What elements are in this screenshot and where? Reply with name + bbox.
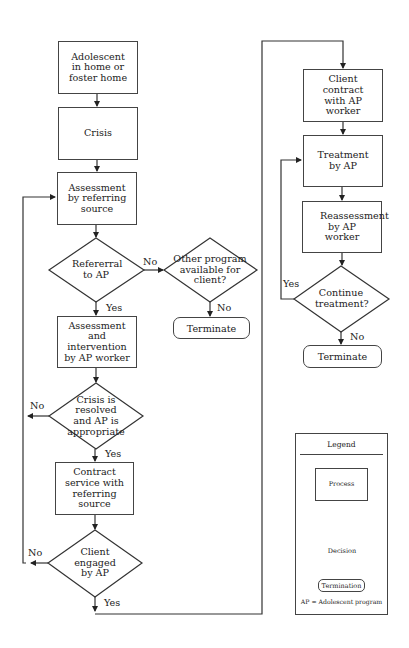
other-program-decision-label: Other program available for client? xyxy=(168,254,252,286)
continue-no-label: No xyxy=(350,331,364,342)
legend-title: Legend xyxy=(296,440,387,449)
client-engaged-decision-text: Client engaged by AP xyxy=(64,545,126,581)
legend-decision-label: Decision xyxy=(328,546,356,557)
legend-panel: Legend Process Decision Termination AP =… xyxy=(295,433,388,615)
treatment-process-box: Treatment by AP xyxy=(303,135,383,187)
legend-divider xyxy=(300,454,383,455)
client-contract-process-box: Client contract with AP worker xyxy=(303,69,383,122)
engaged-no-label: No xyxy=(28,547,42,558)
contract-service-process-label: Contract service with referring source xyxy=(62,467,128,509)
legend-decision-text: Decision xyxy=(316,544,368,558)
other-program-no-label: No xyxy=(217,302,231,313)
referral-decision-label: Refererral to AP xyxy=(72,259,120,280)
referral-no-label: No xyxy=(143,256,157,267)
intervention-process-label: Assessment and intervention by AP worker xyxy=(61,321,133,363)
assessment-process-label: Assessment by referring source xyxy=(66,183,128,215)
crisis-no-label: No xyxy=(30,400,44,411)
treatment-process-label: Treatment by AP xyxy=(315,150,371,171)
other-program-decision-text: Other program available for client? xyxy=(168,253,252,287)
reassessment-process-label: Reassessment by AP worker xyxy=(320,211,364,243)
start-process-label: Adolescent in home or foster home xyxy=(68,52,128,84)
crisis-resolved-decision-label: Crisis is resolved and AP is appropriate xyxy=(67,395,125,437)
terminate-1-label: Terminate xyxy=(187,323,237,334)
legend-termination-label: Termination xyxy=(322,582,362,590)
legend-process-box: Process xyxy=(315,468,368,501)
start-process-box: Adolescent in home or foster home xyxy=(58,41,138,94)
reassessment-process-box: Reassessment by AP worker xyxy=(302,201,382,253)
crisis-process-label: Crisis xyxy=(84,128,112,139)
legend-process-label: Process xyxy=(329,479,355,490)
crisis-process-box: Crisis xyxy=(58,107,138,160)
continue-treatment-decision-text: Continue treatment? xyxy=(311,285,371,313)
crisis-yes-label: Yes xyxy=(105,448,121,459)
contract-service-process-box: Contract service with referring source xyxy=(55,462,134,515)
referral-yes-label: Yes xyxy=(106,302,122,313)
engaged-yes-label: Yes xyxy=(104,597,120,608)
crisis-resolved-decision-text: Crisis is resolved and AP is appropriate xyxy=(61,392,131,440)
legend-note: AP = Adolescent program xyxy=(296,598,387,605)
referral-decision-text: Refererral to AP xyxy=(66,252,126,288)
intervention-process-box: Assessment and intervention by AP worker xyxy=(57,316,137,368)
terminate-1: Terminate xyxy=(173,317,250,339)
client-engaged-decision-label: Client engaged by AP xyxy=(67,547,123,579)
client-contract-process-label: Client contract with AP worker xyxy=(318,74,368,116)
terminate-2-label: Terminate xyxy=(318,351,368,362)
assessment-process-box: Assessment by referring source xyxy=(57,172,137,225)
legend-termination-shape: Termination xyxy=(318,579,365,592)
continue-yes-label: Yes xyxy=(283,278,299,289)
continue-treatment-decision-label: Continue treatment? xyxy=(315,288,367,309)
terminate-2: Terminate xyxy=(303,345,382,368)
